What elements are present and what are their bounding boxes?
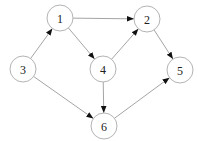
edge-3-to-6: [34, 76, 94, 118]
node-1: 1: [47, 5, 73, 31]
node-2: 2: [134, 6, 160, 32]
edge-1-to-2: [73, 18, 134, 19]
node-label: 5: [177, 64, 183, 78]
nodes-layer: 123456: [10, 5, 193, 139]
directed-graph-diagram: 123456: [0, 0, 198, 141]
edge-6-to-5: [114, 78, 169, 119]
node-label: 2: [144, 13, 150, 27]
edge-4-to-6: [103, 82, 104, 113]
node-label: 3: [20, 63, 26, 77]
edge-2-to-5: [154, 30, 173, 59]
node-6: 6: [91, 113, 117, 139]
node-5: 5: [167, 57, 193, 83]
edge-1-to-4: [68, 28, 94, 59]
node-label: 1: [57, 12, 63, 26]
node-label: 6: [101, 120, 107, 134]
edge-3-to-1: [31, 29, 53, 59]
node-4: 4: [90, 56, 116, 82]
node-3: 3: [10, 56, 36, 82]
edge-4-to-2: [112, 29, 139, 59]
node-label: 4: [100, 63, 106, 77]
